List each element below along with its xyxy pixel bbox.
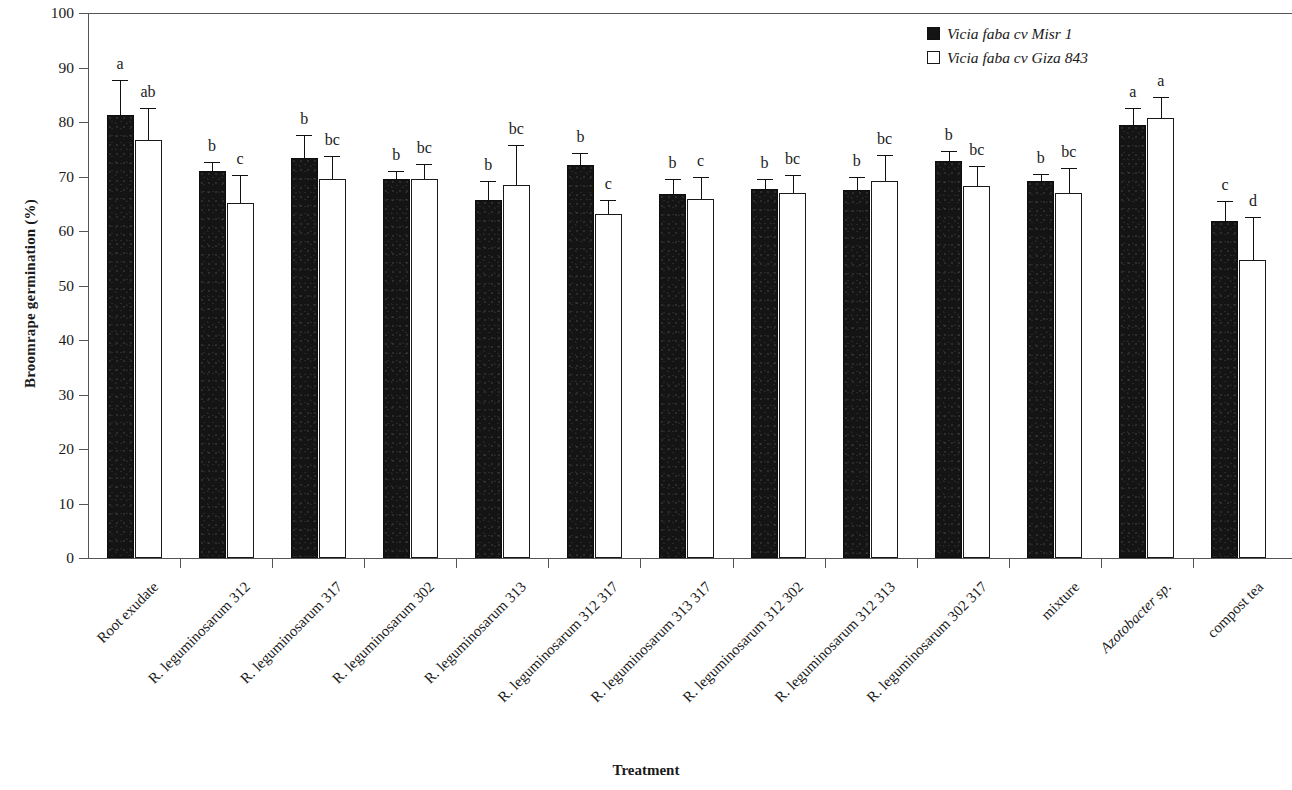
error-bar: [480, 181, 496, 200]
significance-letter: b: [300, 111, 308, 127]
y-tick-label-30: 30: [22, 386, 74, 404]
legend-swatch-icon: [927, 51, 940, 64]
legend-swatch-icon: [927, 27, 940, 40]
x-tick-12: [1193, 558, 1194, 568]
bar: [135, 140, 162, 558]
error-bar-stem: [701, 177, 702, 199]
error-bar-stem: [148, 108, 149, 140]
bar: [227, 203, 254, 558]
y-tick-label-90: 90: [22, 59, 74, 77]
error-bar: [941, 151, 957, 160]
error-bar-stem: [424, 164, 425, 179]
bar: [319, 179, 346, 558]
legend-item: Vicia faba cv Misr 1: [927, 24, 1088, 43]
error-bar-stem: [580, 153, 581, 166]
error-bar-stem: [857, 177, 858, 190]
bar: [1055, 193, 1082, 558]
bar: [475, 200, 502, 558]
significance-letter: bc: [325, 132, 340, 148]
legend-label: Vicia faba cv Giza 843: [947, 49, 1088, 67]
error-bar-stem: [885, 155, 886, 182]
error-bar: [1153, 97, 1169, 118]
error-bar-stem: [1069, 168, 1070, 194]
significance-letter: b: [1037, 150, 1045, 166]
error-bar: [1125, 108, 1141, 125]
error-bar-stem: [673, 179, 674, 194]
y-tick-90: [79, 68, 88, 69]
x-tick-9: [917, 558, 918, 568]
x-tick-6: [640, 558, 641, 568]
error-bar: [1245, 217, 1261, 261]
error-bar: [1061, 168, 1077, 194]
y-tick-label-50: 50: [22, 277, 74, 295]
x-tick-8: [825, 558, 826, 568]
error-bar: [1217, 201, 1233, 221]
x-tick-4: [456, 558, 457, 568]
y-tick-label-100: 100: [22, 4, 74, 22]
significance-letter: d: [1249, 193, 1257, 209]
significance-letter: a: [1157, 73, 1164, 89]
x-axis-title: Treatment: [0, 762, 1292, 779]
y-tick-0: [79, 558, 88, 559]
bar: [503, 185, 530, 558]
bar: [871, 181, 898, 558]
significance-letter: bc: [417, 140, 432, 156]
y-tick-label-80: 80: [22, 113, 74, 131]
significance-letter: b: [484, 157, 492, 173]
significance-letter: c: [697, 153, 704, 169]
bar: [935, 161, 962, 558]
bar: [383, 179, 410, 558]
bar: [687, 199, 714, 558]
y-tick-label-10: 10: [22, 495, 74, 513]
bar: [567, 165, 594, 558]
error-bar: [785, 175, 801, 193]
error-bar: [849, 177, 865, 190]
plot-area: 0102030405060708090100 aabbcbbcbbcbbcbcb…: [88, 13, 1285, 558]
error-bar: [969, 166, 985, 187]
y-axis-line: [88, 13, 89, 559]
error-bar-stem: [1225, 201, 1226, 221]
error-bar-stem: [1253, 217, 1254, 261]
significance-letter: b: [208, 138, 216, 154]
bar: [963, 186, 990, 558]
y-tick-100: [79, 13, 88, 14]
significance-letter: a: [116, 56, 123, 72]
significance-letter: bc: [509, 121, 524, 137]
significance-letter: c: [1221, 177, 1228, 193]
significance-letter: c: [237, 151, 244, 167]
x-tick-7: [733, 558, 734, 568]
significance-letter: c: [605, 176, 612, 192]
error-bar-stem: [793, 175, 794, 193]
bar: [1239, 260, 1266, 558]
error-bar: [204, 162, 220, 171]
error-bar-stem: [488, 181, 489, 200]
x-tick-3: [364, 558, 365, 568]
error-bar: [665, 179, 681, 194]
significance-letter: a: [1129, 84, 1136, 100]
y-tick-80: [79, 122, 88, 123]
error-bar: [112, 80, 128, 115]
bar: [199, 171, 226, 558]
significance-letter: bc: [1061, 144, 1076, 160]
bar: [595, 214, 622, 558]
error-bar-stem: [304, 135, 305, 158]
significance-letter: b: [853, 153, 861, 169]
legend-label: Vicia faba cv Misr 1: [947, 25, 1072, 43]
bar: [1119, 125, 1146, 558]
significance-letter: bc: [785, 151, 800, 167]
error-bar-stem: [977, 166, 978, 187]
error-bar: [324, 156, 340, 179]
error-bar: [600, 200, 616, 213]
y-tick-label-70: 70: [22, 168, 74, 186]
bar: [843, 190, 870, 558]
y-tick-20: [79, 449, 88, 450]
error-bar: [572, 153, 588, 166]
significance-letter: ab: [140, 84, 155, 100]
error-bar: [416, 164, 432, 179]
significance-letter: bc: [969, 142, 984, 158]
chart-root: Broomrape germination (%) 01020304050607…: [0, 0, 1292, 790]
bar: [411, 179, 438, 558]
error-bar-stem: [120, 80, 121, 115]
error-bar-stem: [1133, 108, 1134, 125]
error-bar-stem: [765, 179, 766, 189]
